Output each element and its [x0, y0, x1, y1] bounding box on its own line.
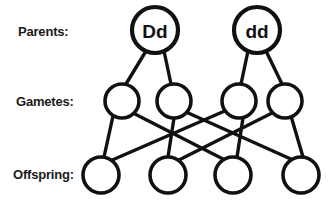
edge-gamete4-offspring4	[291, 116, 303, 157]
edge-gamete2-offspring2	[168, 118, 174, 157]
gamete-circle-4[interactable]	[268, 84, 302, 118]
offspring-row	[83, 157, 319, 193]
parent-to-gamete-edges	[126, 51, 282, 84]
row-label-offspring: Offspring:	[13, 167, 74, 182]
cross-diagram-canvas: Parents: Gametes: Offspring: Dd dd	[0, 0, 334, 200]
row-label-gametes: Gametes:	[16, 94, 74, 109]
gamete-circle-2[interactable]	[157, 84, 191, 118]
offspring-circle-2[interactable]	[150, 157, 186, 193]
gamete-circle-1[interactable]	[105, 84, 139, 118]
edge-parent2-gamete3	[241, 51, 248, 84]
row-label-parents: Parents:	[18, 24, 68, 39]
parent-genotype-1: Dd	[142, 21, 167, 42]
offspring-circle-3[interactable]	[215, 157, 251, 193]
edge-parent1-gamete1	[126, 51, 146, 84]
edge-gamete4-offspring2	[177, 112, 274, 161]
offspring-circle-1[interactable]	[83, 157, 119, 193]
edge-gamete1-offspring3	[133, 113, 225, 160]
gamete-to-offspring-edges	[104, 110, 303, 161]
edge-gamete1-offspring1	[104, 116, 113, 157]
edge-parent1-gamete2	[164, 51, 171, 84]
edge-parent2-gamete4	[266, 51, 282, 84]
parent-genotype-2: dd	[245, 21, 268, 42]
genetic-cross-diagram: Parents: Gametes: Offspring: Dd dd	[0, 0, 334, 200]
offspring-circle-4[interactable]	[283, 157, 319, 193]
gametes-row	[105, 84, 302, 118]
gamete-circle-3[interactable]	[222, 84, 256, 118]
parents-row: Dd dd	[132, 7, 280, 53]
